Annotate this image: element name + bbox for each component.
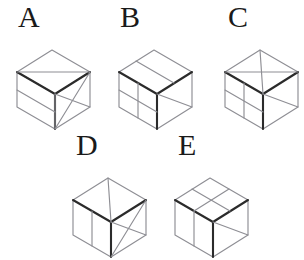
- figure-label-a: A: [18, 2, 40, 32]
- figure-cube-a: [14, 36, 96, 132]
- figure-cube-e: [172, 164, 254, 260]
- cube-a-drawing: [14, 36, 96, 132]
- figure-cube-c: [222, 36, 304, 132]
- cube-b-drawing: [116, 36, 198, 132]
- figure-label-d: D: [76, 130, 98, 160]
- figure-cube-d: [70, 164, 152, 260]
- figure-label-b: B: [120, 2, 140, 32]
- figure-cube-b: [116, 36, 198, 132]
- cube-c-drawing: [222, 36, 304, 132]
- figure-label-e: E: [178, 130, 196, 160]
- cube-d-drawing: [70, 164, 152, 260]
- figure-label-c: C: [228, 2, 248, 32]
- cube-e-drawing: [172, 164, 254, 260]
